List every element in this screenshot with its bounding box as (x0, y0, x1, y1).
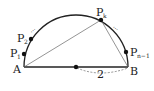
label-Pn-1-sub: n−1 (137, 52, 150, 59)
diameter-length-label: 2 (97, 68, 104, 81)
chord-APk (24, 20, 101, 67)
label-A: A (12, 63, 22, 76)
semicircle-arc (24, 15, 128, 67)
point-P2 (29, 37, 33, 41)
semicircle-diagram: ⋯ ⋯ A B P 1 P 2 P k P n−1 2 (0, 0, 154, 91)
label-P2-sub: 2 (24, 38, 28, 45)
point-P1 (22, 52, 26, 56)
label-B: B (130, 65, 138, 78)
label-Pk-sub: k (103, 12, 107, 19)
center-point (74, 65, 78, 69)
point-Pn-1 (124, 50, 128, 54)
label-P1-sub: 1 (17, 53, 21, 60)
